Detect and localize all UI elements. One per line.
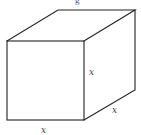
caption-fragment: g <box>75 0 80 5</box>
label-depth: x <box>112 105 117 115</box>
cube-top-face <box>7 10 135 41</box>
cube-right-face <box>84 10 135 120</box>
cube-diagram: g x x x <box>0 0 141 135</box>
label-width: x <box>41 125 46 135</box>
cube <box>7 10 135 120</box>
label-height: x <box>89 67 94 77</box>
cube-front-face <box>7 41 84 120</box>
